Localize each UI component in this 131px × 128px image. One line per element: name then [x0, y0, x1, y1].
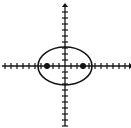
ellipse-diagram: [0, 0, 131, 128]
left-focus-point: [44, 63, 50, 69]
right-focus-point: [80, 63, 86, 69]
coordinate-plane-canvas: [0, 0, 131, 128]
